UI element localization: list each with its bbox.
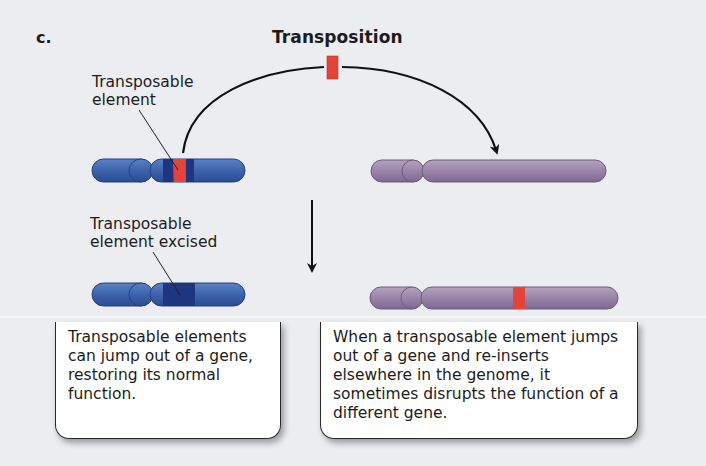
label-element-excised: Transposable element excised <box>90 215 217 252</box>
diagram-title: Transposition <box>272 27 403 47</box>
transposition-diagram: c. Transposition Transposable element Tr… <box>0 0 706 466</box>
panel-label: c. <box>36 29 52 48</box>
transposable-element <box>174 159 186 182</box>
chromosome-inserted <box>370 287 618 309</box>
inserted-element <box>513 287 525 309</box>
transposon-in-transit <box>327 56 338 79</box>
chromosome-excised <box>92 283 245 306</box>
chromosome-target <box>371 160 606 182</box>
chromosome-original <box>92 159 245 182</box>
transposition-arrow <box>183 67 496 153</box>
label-transposable-element: Transposable element <box>92 73 194 110</box>
callout-disrupt-gene: When a transposable element jumps out of… <box>320 322 638 439</box>
callout-restore-function: Transposable elements can jump out of a … <box>55 322 281 439</box>
